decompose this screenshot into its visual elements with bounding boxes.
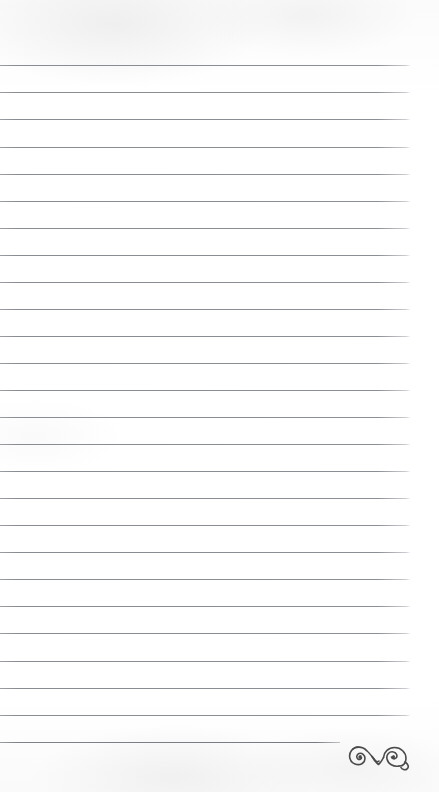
ruled-line: [0, 444, 410, 445]
ruled-line: [0, 661, 410, 662]
ruled-line: [0, 92, 410, 93]
ruled-line: [0, 65, 410, 66]
ruled-line: [0, 688, 410, 689]
ruled-line: [0, 147, 410, 148]
ruled-line: [0, 525, 410, 526]
ruled-line: [0, 336, 410, 337]
ruled-line: [0, 417, 410, 418]
ruled-line: [0, 498, 410, 499]
ruled-line: [0, 255, 410, 256]
ruled-line: [0, 228, 410, 229]
ruled-line: [0, 119, 410, 120]
ruled-line: [0, 471, 410, 472]
ruled-line: [0, 715, 410, 716]
ruled-line: [0, 606, 410, 607]
ruled-line: [0, 201, 410, 202]
ruled-line: [0, 633, 410, 634]
ruled-line: [0, 309, 410, 310]
ruled-line-last: [0, 742, 340, 743]
notepad-page: [0, 0, 439, 792]
ruled-line: [0, 390, 410, 391]
ruled-line: [0, 552, 410, 553]
ruled-line: [0, 363, 410, 364]
ruled-line: [0, 579, 410, 580]
ruled-lines-group: [0, 0, 439, 792]
ruled-line: [0, 282, 410, 283]
ruled-line: [0, 174, 410, 175]
